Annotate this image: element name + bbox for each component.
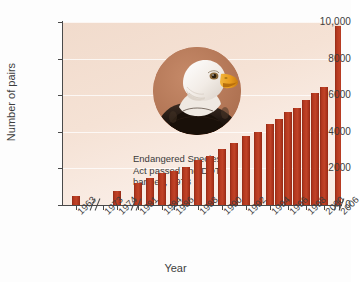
bar-1996 <box>284 112 292 205</box>
bar-1994 <box>266 124 274 205</box>
y-tick-label-6000: 6000 <box>299 90 351 100</box>
y-axis-title: Number of pairs <box>5 47 17 157</box>
bar-2000 <box>320 87 328 205</box>
bar-1998 <box>302 100 310 205</box>
x-axis-title: Year <box>0 262 351 274</box>
y-axis-line <box>62 21 63 206</box>
y-tick-4000 <box>58 132 63 133</box>
y-tick-10000 <box>58 22 63 23</box>
y-tick-label-2000: 2000 <box>299 163 351 173</box>
bald-eagle-photo <box>153 47 241 135</box>
bald-eagle-illustration <box>153 47 241 135</box>
bar-1990 <box>218 149 226 205</box>
bar-1992 <box>242 136 250 205</box>
bottom-caption <box>6 276 346 282</box>
plot-area: Endangered Species Act passed and DDT ba… <box>63 22 341 205</box>
bar-1988 <box>194 160 202 205</box>
y-tick-6000 <box>58 95 63 96</box>
y-tick-label-8000: 8000 <box>299 54 351 64</box>
bar-1997 <box>293 108 301 205</box>
bar-1995 <box>275 119 283 205</box>
y-tick-2000 <box>58 168 63 169</box>
y-tick-0 <box>58 205 63 206</box>
y-tick-label-10000: 10,000 <box>299 17 351 27</box>
y-tick-label-4000: 4000 <box>299 127 351 137</box>
y-tick-8000 <box>58 59 63 60</box>
bar-1999 <box>311 93 319 205</box>
